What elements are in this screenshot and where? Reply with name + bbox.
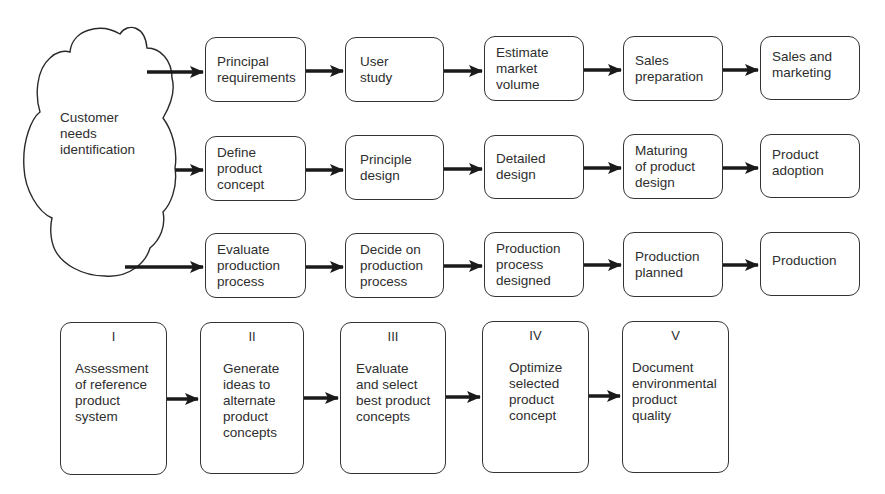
box-label: Sales preparation (635, 53, 703, 85)
box-sales-preparation: Sales preparation (623, 36, 723, 101)
box-evaluate-production-process: Evaluate production process (205, 233, 306, 298)
box-label: Production planned (635, 249, 700, 281)
box-detailed-design: Detailed design (484, 135, 584, 199)
box-production-planned: Production planned (623, 232, 723, 297)
stage-label: Assessment of reference product system (75, 361, 149, 425)
box-label: Product adoption (772, 147, 824, 179)
stage-numeral: III (341, 329, 445, 345)
stage-numeral: I (61, 329, 166, 345)
stage-numeral: IV (483, 328, 588, 344)
stage-numeral: II (201, 329, 303, 345)
box-user-study: User study (345, 37, 444, 102)
box-label: Evaluate production process (217, 242, 280, 290)
box-label: Production (772, 253, 837, 269)
box-label: Maturing of product design (635, 143, 695, 191)
box-label: Production process designed (496, 241, 561, 289)
box-label: Principal requirements (217, 54, 296, 86)
stage-box-2: II Generate ideas to alternate product c… (200, 322, 304, 474)
box-decide-on-production-process: Decide on production process (345, 233, 444, 298)
box-define-product-concept: Define product concept (205, 136, 306, 201)
box-label: Define product concept (217, 145, 264, 193)
stage-label: Document environmental product quality (632, 360, 717, 424)
box-production: Production (760, 232, 860, 296)
box-production-process-designed: Production process designed (484, 232, 584, 297)
stage-box-4: IV Optimize selected product concept (482, 321, 589, 473)
box-label: Estimate market volume (496, 45, 549, 93)
box-maturing-of-product-design: Maturing of product design (623, 134, 723, 199)
box-estimate-market-volume: Estimate market volume (484, 36, 584, 101)
box-principal-requirements: Principal requirements (205, 37, 306, 102)
box-label: Sales and marketing (772, 49, 832, 81)
cloud-label: Customer needs identification (60, 110, 135, 158)
stage-label: Evaluate and select best product concept… (356, 361, 430, 425)
box-principle-design: Principle design (345, 135, 444, 200)
stage-label: Generate ideas to alternate product conc… (223, 361, 279, 441)
stage-box-1: I Assessment of reference product system (60, 322, 167, 475)
diagram-canvas: Customer needs identification Principal … (0, 0, 885, 494)
box-label: User study (360, 54, 392, 86)
box-label: Principle design (360, 152, 412, 184)
stage-numeral: V (623, 328, 728, 344)
box-label: Decide on production process (360, 242, 423, 290)
stage-box-3: III Evaluate and select best product con… (340, 322, 446, 474)
box-sales-and-marketing: Sales and marketing (760, 36, 860, 100)
box-product-adoption: Product adoption (760, 134, 860, 198)
box-label: Detailed design (496, 151, 546, 183)
stage-box-5: V Document environmental product quality (622, 321, 729, 473)
stage-label: Optimize selected product concept (509, 360, 562, 424)
